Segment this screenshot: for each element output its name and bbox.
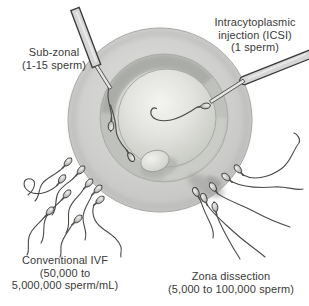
label-conventional-ivf: Conventional IVF (50,000 to 5,000,000 sp… [0, 254, 132, 292]
fertilization-diagram: Sub-zonal (1-15 sperm) Intracytoplasmic … [0, 0, 309, 306]
sperm [92, 195, 121, 257]
sperm [24, 173, 67, 195]
sperm [60, 214, 84, 257]
sperm [27, 205, 55, 255]
label-zona-dissection: Zona dissection (5,000 to 100,000 sperm) [160, 270, 302, 295]
label-icsi: Intracytoplasmic injection (ICSI) (1 spe… [203, 16, 307, 54]
sperm [66, 177, 94, 233]
sperm [211, 202, 240, 259]
label-sub-zonal: Sub-zonal (1-15 sperm) [6, 46, 102, 71]
ooplasm [118, 69, 216, 167]
